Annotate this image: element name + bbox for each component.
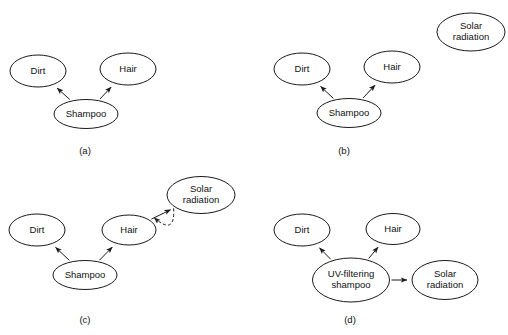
edge-shampoo-to-dirt <box>57 88 70 99</box>
panel-caption-d: (d) <box>344 314 356 325</box>
node-solar[interactable]: Solarradiation <box>437 13 505 51</box>
node-label-uvshampoo: shampoo <box>331 279 370 290</box>
node-shampoo[interactable]: Shampoo <box>54 100 118 129</box>
diagram-canvas: DirtHairShampooDirtHairShampooSolarradia… <box>0 0 508 335</box>
node-label-solar: radiation <box>183 194 219 205</box>
node-label-hair: Hair <box>119 63 136 74</box>
node-hair[interactable]: Hair <box>102 215 156 245</box>
node-label-hair: Hair <box>120 224 137 235</box>
node-shampoo[interactable]: Shampoo <box>53 261 117 290</box>
panel-caption-c: (c) <box>79 314 90 325</box>
node-label-solar: radiation <box>427 279 463 290</box>
node-label-dirt: Dirt <box>31 65 46 76</box>
node-dirt[interactable]: Dirt <box>10 55 66 87</box>
node-label-uvshampoo: UV-filtering <box>328 268 374 279</box>
node-label-hair: Hair <box>384 223 401 234</box>
node-dirt[interactable]: Dirt <box>9 214 65 246</box>
edge-shampoo-to-hair <box>363 85 375 98</box>
panel-caption-b: (b) <box>338 145 350 156</box>
node-label-solar: Solar <box>460 20 482 31</box>
node-shampoo[interactable]: Shampoo <box>317 99 381 128</box>
node-hair[interactable]: Hair <box>366 214 420 245</box>
node-label-solar: radiation <box>453 31 489 42</box>
edge-hair-to-solar <box>151 210 170 219</box>
node-dirt[interactable]: Dirt <box>274 214 330 246</box>
edge-shampoo-to-dirt <box>321 86 334 98</box>
node-label-dirt: Dirt <box>295 224 310 235</box>
node-label-shampoo: Shampoo <box>329 107 370 118</box>
nodes-layer: DirtHairShampooDirtHairShampooSolarradia… <box>9 13 505 302</box>
edge-shampoo-to-hair <box>100 247 113 260</box>
node-dirt[interactable]: Dirt <box>274 53 330 85</box>
node-label-shampoo: Shampoo <box>65 269 106 280</box>
node-label-dirt: Dirt <box>295 63 310 74</box>
node-label-hair: Hair <box>383 61 400 72</box>
edge-uvshampoo-to-dirt <box>319 248 330 259</box>
panel-caption-a: (a) <box>79 145 91 156</box>
node-label-dirt: Dirt <box>30 224 45 235</box>
edge-shampoo-to-hair <box>100 87 111 99</box>
edge-uvshampoo-to-hair <box>369 247 378 258</box>
node-hair[interactable]: Hair <box>364 51 420 83</box>
node-hair[interactable]: Hair <box>100 53 156 85</box>
node-solar[interactable]: Solarradiation <box>167 177 235 214</box>
node-label-solar: Solar <box>190 183 212 194</box>
node-label-shampoo: Shampoo <box>66 108 107 119</box>
causal-diagram-figure: DirtHairShampooDirtHairShampooSolarradia… <box>0 0 508 335</box>
node-uvshampoo[interactable]: UV-filteringshampoo <box>313 258 390 302</box>
node-label-solar: Solar <box>434 268 456 279</box>
node-solar[interactable]: Solarradiation <box>412 261 478 300</box>
edge-shampoo-to-dirt <box>56 247 70 260</box>
